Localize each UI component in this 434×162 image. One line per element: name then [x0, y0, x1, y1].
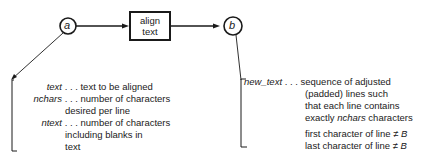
align-text-process-box: align text	[129, 11, 171, 41]
input-node-label: a	[64, 19, 70, 31]
param-desc-continuation: that each line contains	[305, 100, 400, 111]
input-param-text: text . . . text to be aligned	[16, 81, 153, 92]
param-name: ntext	[16, 117, 62, 128]
input-param-nchars: nchars . . . number of characters	[16, 93, 170, 104]
output-param-new-text: new_text . . . sequence of adjusted	[244, 76, 391, 87]
arrowhead-icon	[213, 24, 220, 29]
condition-last-char: last character of line ≠ B	[305, 140, 407, 151]
param-name: text	[16, 81, 62, 92]
param-name: nchars	[16, 93, 62, 104]
arrowhead-icon	[122, 24, 129, 29]
param-desc-continuation: text	[65, 141, 80, 152]
output-node-label: b	[229, 19, 235, 31]
param-desc-continuation: desired per line	[65, 105, 130, 116]
param-desc-continuation: (padded) lines such	[305, 88, 388, 99]
condition-first-char: first character of line ≠ B	[305, 128, 407, 139]
process-label-line2: text	[142, 26, 157, 37]
param-desc-continuation: including blanks in	[65, 129, 143, 140]
process-label-line1: align	[140, 15, 160, 26]
input-param-ntext: ntext . . . number of characters	[16, 117, 170, 128]
param-name: new_text	[244, 76, 282, 87]
param-desc-continuation: exactly nchars characters	[305, 112, 413, 123]
